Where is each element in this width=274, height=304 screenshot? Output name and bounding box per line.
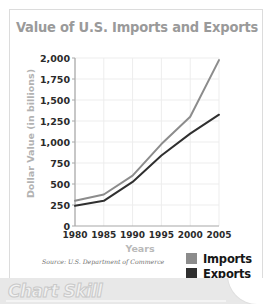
y-tick-label: 2,000	[40, 53, 70, 64]
y-tick-label: 1,250	[40, 116, 70, 127]
y-tick-label: 750	[50, 158, 70, 169]
x-tick-label: 1985	[91, 230, 116, 240]
gridlines	[75, 58, 219, 226]
source-note: Source: U.S. Department of Commerce	[42, 258, 164, 265]
series-line-imports	[75, 60, 219, 201]
x-tick-label: 1995	[149, 230, 174, 240]
chart-legend: ImportsExports	[186, 251, 252, 281]
x-tick-label: 2000	[178, 230, 203, 240]
y-tick-label: 1,500	[40, 95, 70, 106]
y-tick-label: 1,750	[40, 74, 70, 85]
y-tick-label: 250	[50, 200, 70, 211]
chart-canvas	[75, 58, 219, 226]
x-tick-label: 1980	[62, 230, 87, 240]
chart-skill-banner: Chart Skill	[0, 278, 274, 304]
legend-label: Imports	[203, 252, 252, 266]
y-axis-title: Dollar Value (in billions)	[25, 69, 36, 199]
chart-page: Value of U.S. Imports and Exports Dollar…	[0, 0, 274, 304]
legend-swatch-icon	[186, 253, 197, 264]
y-tick-label: 1,000	[40, 137, 70, 148]
x-tick-label: 2005	[206, 230, 231, 240]
legend-item: Imports	[186, 251, 252, 266]
plot-area: 02505007501,0001,2501,5001,7502,000 1980…	[75, 58, 219, 226]
y-tick-label: 500	[50, 179, 70, 190]
x-tick-label: 1990	[120, 230, 145, 240]
banner-corner-notch	[227, 278, 274, 304]
banner-label: Chart Skill	[8, 281, 102, 301]
chart-title: Value of U.S. Imports and Exports	[10, 19, 264, 35]
